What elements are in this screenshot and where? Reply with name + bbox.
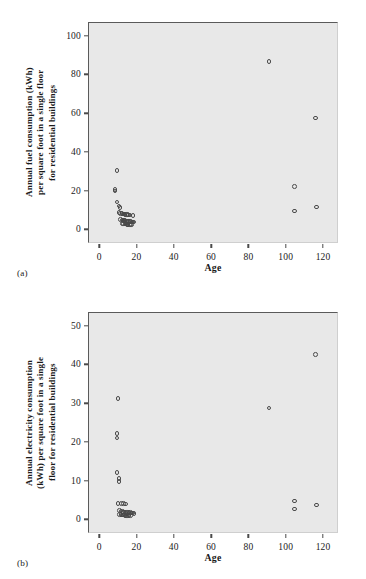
y-tick-mark <box>84 35 88 36</box>
data-point <box>267 406 272 411</box>
data-point <box>313 116 318 121</box>
panel-caption-a: (a) <box>17 268 28 278</box>
chart-panel-a: Annual fuel consumption (kWh) per square… <box>0 0 366 289</box>
x-tick-label: 80 <box>243 542 253 552</box>
data-point <box>113 189 118 194</box>
x-tick-mark <box>248 534 249 538</box>
x-tick-mark <box>285 534 286 538</box>
y-tick-label: 40 <box>71 359 81 369</box>
data-point <box>292 507 297 512</box>
plot-area-a <box>88 22 338 243</box>
x-tick-label: 60 <box>206 252 216 262</box>
data-point <box>115 436 120 441</box>
chart-panel-b: Annual electricity consumption (kWh) per… <box>0 290 366 579</box>
y-tick-mark <box>84 190 88 191</box>
y-tick-label: 20 <box>71 437 81 447</box>
data-point <box>118 205 123 210</box>
data-point <box>117 479 122 484</box>
x-tick-mark <box>98 244 99 248</box>
data-point <box>131 213 136 218</box>
y-tick-mark <box>84 74 88 75</box>
x-tick-label: 100 <box>278 542 293 552</box>
y-tick-label: 10 <box>71 476 81 486</box>
y-axis-label-a: Annual fuel consumption (kWh) per square… <box>24 22 58 243</box>
data-point <box>115 470 120 475</box>
y-tick-mark <box>84 364 88 365</box>
x-tick-label: 40 <box>169 542 179 552</box>
x-tick-mark <box>98 534 99 538</box>
x-tick-mark <box>285 244 286 248</box>
y-tick-mark <box>84 325 88 326</box>
x-tick-mark <box>210 534 211 538</box>
y-tick-label: 0 <box>76 514 81 524</box>
data-point <box>292 184 297 189</box>
y-axis-label-b: Annual electricity consumption (kWh) per… <box>24 312 58 533</box>
x-tick-label: 40 <box>169 252 179 262</box>
y-tick-label: 20 <box>71 186 81 196</box>
x-tick-label: 20 <box>132 542 142 552</box>
data-point <box>123 502 128 507</box>
x-tick-mark <box>173 534 174 538</box>
data-point <box>128 513 133 518</box>
data-point <box>314 503 319 508</box>
x-tick-mark <box>322 534 323 538</box>
x-tick-mark <box>136 534 137 538</box>
y-tick-mark <box>84 519 88 520</box>
data-point <box>292 209 297 214</box>
panel-caption-b: (b) <box>17 558 28 568</box>
data-point <box>313 352 318 357</box>
plot-area-b <box>88 312 338 533</box>
data-point <box>132 511 137 516</box>
x-axis-label-a: Age <box>205 262 222 273</box>
x-tick-label: 60 <box>206 542 216 552</box>
x-tick-label: 100 <box>278 252 293 262</box>
data-point <box>116 396 121 401</box>
y-tick-mark <box>84 229 88 230</box>
x-tick-mark <box>136 244 137 248</box>
y-tick-mark <box>84 151 88 152</box>
y-tick-label: 40 <box>71 147 81 157</box>
x-tick-mark <box>173 244 174 248</box>
data-point <box>267 59 272 64</box>
x-axis-label-b: Age <box>205 552 222 563</box>
y-tick-label: 80 <box>71 69 81 79</box>
y-tick-label: 60 <box>71 108 81 118</box>
x-tick-mark <box>322 244 323 248</box>
y-tick-label: 100 <box>66 31 81 41</box>
y-tick-mark <box>84 480 88 481</box>
data-point <box>115 168 120 173</box>
x-tick-label: 0 <box>97 252 102 262</box>
x-tick-mark <box>210 244 211 248</box>
y-tick-label: 30 <box>71 398 81 408</box>
x-tick-label: 20 <box>132 252 142 262</box>
x-tick-label: 120 <box>316 252 331 262</box>
y-tick-label: 0 <box>76 224 81 234</box>
data-point <box>314 205 319 210</box>
y-tick-mark <box>84 112 88 113</box>
y-tick-mark <box>84 402 88 403</box>
x-tick-label: 0 <box>97 542 102 552</box>
x-tick-label: 120 <box>316 542 331 552</box>
y-tick-mark <box>84 441 88 442</box>
x-tick-label: 80 <box>243 252 253 262</box>
data-point <box>129 222 134 227</box>
y-tick-label: 50 <box>71 321 81 331</box>
data-point <box>292 499 297 504</box>
x-tick-mark <box>248 244 249 248</box>
